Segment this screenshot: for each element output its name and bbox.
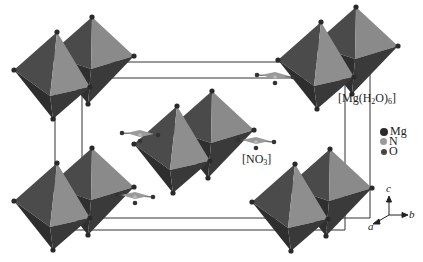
axis-indicator xyxy=(373,196,408,224)
nitrate-label: [NO3] xyxy=(242,152,271,167)
n-atom-icon xyxy=(380,138,387,145)
axis-c-label: c xyxy=(386,182,391,194)
axis-a-label: a xyxy=(368,220,374,232)
octahedron-top-left xyxy=(11,14,136,121)
mg-atom-icon xyxy=(380,128,388,136)
crystal-structure-diagram xyxy=(0,0,423,262)
mg-water-octahedron-label: [Mg(H2O)6] xyxy=(338,91,396,106)
legend-item-o: O xyxy=(381,146,398,157)
o-atom-icon xyxy=(381,149,387,155)
octahedron-bottom-left xyxy=(11,145,136,252)
axis-b-label: b xyxy=(409,208,415,220)
